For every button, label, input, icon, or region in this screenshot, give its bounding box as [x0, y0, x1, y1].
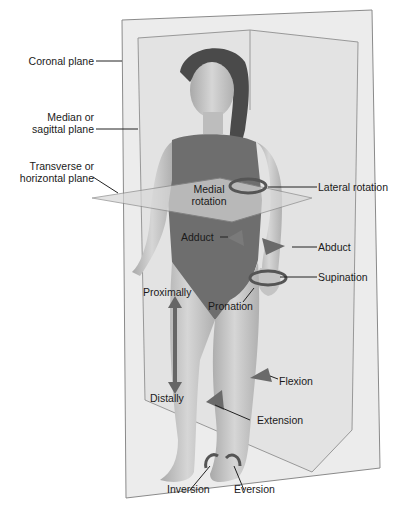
- head: [190, 62, 234, 118]
- medial-rotation-line2: rotation: [184, 195, 234, 207]
- eversion-label: Eversion: [234, 483, 275, 495]
- medial-rotation-label: Medial rotation: [184, 183, 234, 207]
- transverse-label-line1: Transverse or: [0, 160, 94, 172]
- sagittal-label-line1: Median or: [20, 111, 94, 123]
- lateral-rotation-label: Lateral rotation: [318, 181, 388, 193]
- distally-label: Distally: [150, 392, 184, 404]
- coronal-plane-label: Coronal plane: [20, 55, 94, 67]
- anatomy-diagram: Coronal plane Median or sagittal plane T…: [0, 0, 403, 517]
- proximally-label: Proximally: [143, 286, 191, 298]
- supination-label: Supination: [318, 271, 368, 283]
- medial-rotation-line1: Medial: [184, 183, 234, 195]
- inversion-label: Inversion: [167, 483, 210, 495]
- anatomy-illustration: [0, 0, 403, 517]
- pronation-label: Pronation: [208, 300, 253, 312]
- transverse-plane-label: Transverse or horizontal plane: [0, 160, 94, 184]
- flexion-label: Flexion: [279, 375, 313, 387]
- sagittal-plane-label: Median or sagittal plane: [20, 111, 94, 135]
- abduct-label: Abduct: [318, 241, 351, 253]
- extension-label: Extension: [257, 414, 303, 426]
- adduct-label: Adduct: [181, 231, 214, 243]
- transverse-label-line2: horizontal plane: [0, 172, 94, 184]
- sagittal-label-line2: sagittal plane: [20, 123, 94, 135]
